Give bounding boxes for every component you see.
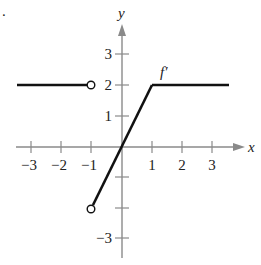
graph: . −3 −2 −1 1 2 3 3 2 1 −3 [0,0,261,265]
figure-bullet: . [2,3,6,19]
svg-text:2: 2 [105,77,113,93]
svg-text:3: 3 [208,157,216,173]
open-point-upper [87,81,95,89]
f-prime-curve [17,85,229,205]
curve-label: f′ [160,64,168,80]
open-point-lower [87,205,95,213]
svg-text:−3: −3 [96,230,112,246]
svg-text:−3: −3 [21,157,37,173]
svg-text:−2: −2 [51,157,67,173]
svg-text:3: 3 [105,46,113,62]
svg-text:1: 1 [148,157,156,173]
y-tick-labels: 3 2 1 −3 [96,46,112,246]
svg-text:1: 1 [105,108,113,124]
y-axis-arrow-icon [118,24,126,36]
y-axis-label: y [116,5,125,21]
svg-text:2: 2 [178,157,186,173]
axes [16,24,245,258]
x-axis-label: x [247,139,255,155]
x-axis-arrow-icon [233,143,245,151]
x-tick-labels: −3 −2 −1 1 2 3 [21,157,216,173]
svg-text:−1: −1 [81,157,97,173]
